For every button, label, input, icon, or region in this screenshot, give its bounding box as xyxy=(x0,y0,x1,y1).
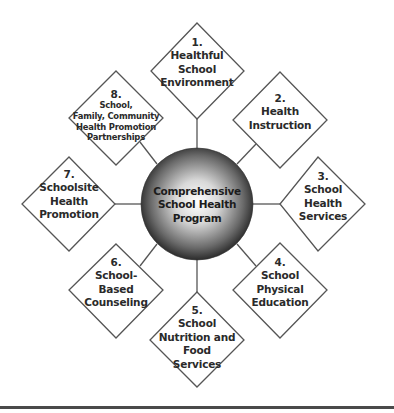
component-number: 6. xyxy=(84,256,147,269)
hub-label: Comprehensive School Health Program xyxy=(153,185,241,225)
component-label-7: 7. Schoolsite Health Promotion xyxy=(39,168,99,222)
component-number: 8. xyxy=(73,88,159,100)
connector-8 xyxy=(140,142,157,164)
component-number: 7. xyxy=(39,168,99,181)
component-label-2: 2. Health Instruction xyxy=(249,92,312,132)
component-label-4: 4. School Physical Education xyxy=(252,256,309,310)
connector-2 xyxy=(237,144,256,164)
component-label-5: 5. School Nutrition and Food Services xyxy=(159,304,236,371)
component-number: 1. xyxy=(160,36,233,49)
component-number: 2. xyxy=(249,92,312,105)
bottom-divider xyxy=(0,406,394,409)
component-number: 5. xyxy=(159,304,236,317)
component-number: 4. xyxy=(252,256,309,269)
component-number: 3. xyxy=(299,170,347,183)
component-label-8: 8. School, Family, Community Health Prom… xyxy=(73,88,159,143)
component-label-3: 3. School Health Services xyxy=(299,170,347,224)
component-label-1: 1. Healthful School Environment xyxy=(160,36,233,90)
component-label-6: 6. School- Based Counseling xyxy=(84,256,147,310)
